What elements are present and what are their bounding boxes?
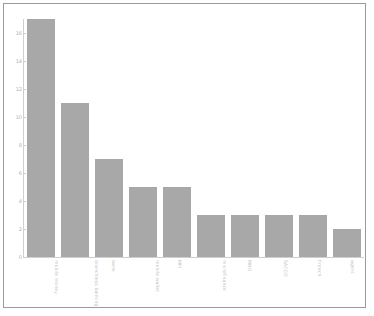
bar-group: MNO xyxy=(231,19,260,257)
y-axis-tick: 12 xyxy=(16,87,24,92)
bar[interactable] xyxy=(299,215,328,257)
y-axis-tick-label: 16 xyxy=(16,31,24,36)
y-axis-tick: 14 xyxy=(16,59,24,64)
bar[interactable] xyxy=(231,215,260,257)
bar-group: mobile wallet xyxy=(129,19,158,257)
x-axis-tick-label: agent xyxy=(349,260,354,274)
x-axis-tick-label: mobile money xyxy=(53,260,58,294)
bar-group: fintech xyxy=(299,19,328,257)
y-axis-tick-label: 10 xyxy=(16,115,24,120)
y-axis-tick: 10 xyxy=(16,115,24,120)
x-axis-tick-label: bank xyxy=(110,260,115,272)
figure-frame: 0246810121416 mobile moneybranchless ban… xyxy=(3,3,366,308)
y-axis-tick-label: 12 xyxy=(16,87,24,92)
bar-group: bank xyxy=(95,19,124,257)
bar-group: branchless banking xyxy=(61,19,90,257)
bar[interactable] xyxy=(61,103,90,257)
bar-group: mobile money xyxy=(27,19,56,257)
bar[interactable] xyxy=(333,229,362,257)
x-axis-tick-label: MFI xyxy=(177,260,182,268)
bar[interactable] xyxy=(265,215,294,257)
bar[interactable] xyxy=(129,187,158,257)
bar-group: MFI xyxy=(163,19,192,257)
x-axis-tick-label: SACCO xyxy=(283,260,288,277)
x-axis-tick-label: MNO xyxy=(246,260,251,271)
y-axis-tick: 16 xyxy=(16,31,24,36)
x-axis-tick-label: fintech xyxy=(317,260,322,277)
bar-group: SACCO xyxy=(265,19,294,257)
bar[interactable] xyxy=(163,187,192,257)
plot-area: 0246810121416 mobile moneybranchless ban… xyxy=(23,19,364,258)
bar[interactable] xyxy=(95,159,124,257)
bar-group: agent xyxy=(333,19,362,257)
x-axis-tick-label: microfinance xyxy=(222,260,227,291)
bar[interactable] xyxy=(197,215,226,257)
bar-series: mobile moneybranchless bankingbankmobile… xyxy=(24,19,364,257)
bar[interactable] xyxy=(27,19,56,257)
y-axis-tick-label: 14 xyxy=(16,59,24,64)
x-axis-tick-label: branchless banking xyxy=(94,260,99,307)
bar-group: microfinance xyxy=(197,19,226,257)
x-axis-tick-label: mobile wallet xyxy=(154,260,159,292)
